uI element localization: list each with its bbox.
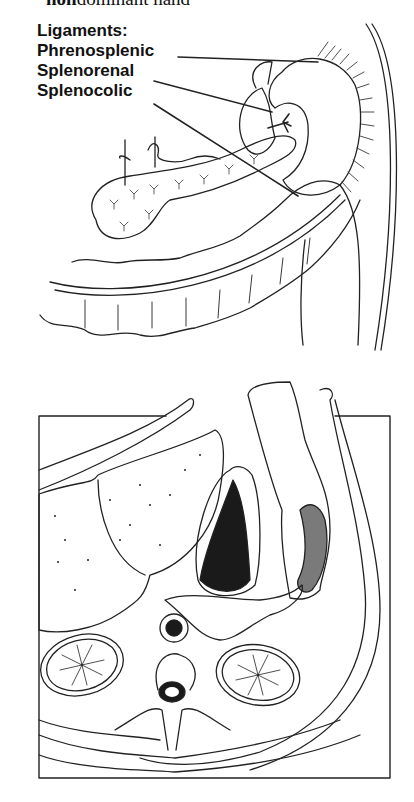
pancreas-section xyxy=(165,585,302,640)
top-figure xyxy=(40,24,396,350)
body-wall-outer xyxy=(366,24,390,350)
vertebral-processes xyxy=(115,709,230,750)
body-wall-inner xyxy=(372,24,396,350)
pancreas-texture xyxy=(110,155,258,231)
anatomy-illustration xyxy=(0,0,414,802)
aorta-lumen xyxy=(166,620,182,636)
body-wall-1 xyxy=(140,389,366,765)
liver xyxy=(39,430,223,632)
rib xyxy=(39,399,194,490)
spleen xyxy=(269,58,360,195)
bottom-figure xyxy=(34,382,390,778)
ligament-fringe xyxy=(318,42,374,192)
leader-line-splenocolic xyxy=(154,104,298,196)
liver-fissure xyxy=(98,480,145,575)
spinal-cord xyxy=(165,687,179,697)
descending-colon xyxy=(301,185,360,345)
taenia-line-1 xyxy=(50,195,340,289)
stomach-contents xyxy=(200,480,250,591)
adrenal xyxy=(253,62,272,88)
